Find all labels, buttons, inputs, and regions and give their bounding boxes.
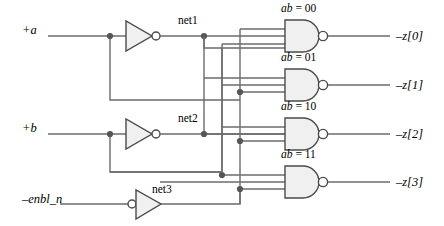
net-label-net2: net2 — [178, 112, 198, 124]
inverter-a — [126, 21, 160, 51]
gate-label-3: ab = 11 — [281, 148, 316, 160]
nand-gate-2 — [285, 118, 390, 150]
output-label-z2: –z[2] — [396, 127, 423, 142]
net-label-net3: net3 — [152, 183, 172, 195]
inverter-b — [126, 119, 160, 149]
wire-gate0-vbus — [222, 29, 240, 204]
wire-gate3-in1 — [219, 172, 285, 178]
gate-label-0-eq: = — [295, 2, 302, 14]
gate-label-2-value: 10 — [305, 100, 317, 112]
gate-label-2-eq: = — [295, 100, 302, 112]
schematic-svg: .w { stroke:#6b6b6b; stroke-width:1.4; f… — [0, 0, 444, 226]
gate-label-1-eq: = — [295, 51, 302, 63]
wire-gate3-in2 — [237, 186, 285, 192]
nand-gate-3 — [285, 166, 390, 198]
wire-net3 — [161, 191, 240, 204]
gate-label-2: ab = 10 — [281, 100, 316, 112]
net-label-net1: net1 — [178, 14, 198, 26]
gate-label-0-value: 00 — [305, 2, 317, 14]
nand-gate-0 — [285, 20, 390, 52]
gate-label-1-prefix: ab — [281, 51, 293, 63]
schematic-canvas: .w { stroke:#6b6b6b; stroke-width:1.4; f… — [0, 0, 444, 226]
gate-label-2-prefix: ab — [281, 100, 293, 112]
wire-gate1-in3 — [237, 89, 285, 95]
output-label-z3: –z[3] — [396, 175, 423, 190]
input-label-a: +a — [22, 23, 37, 38]
gate-label-1: ab = 01 — [281, 51, 316, 63]
gate-label-3-eq: = — [295, 148, 302, 160]
gate-label-3-prefix: ab — [281, 148, 293, 160]
wire-net1-bus — [201, 33, 285, 48]
wire-b-true-bus — [107, 131, 222, 172]
gate-label-3-value: 11 — [305, 148, 316, 160]
wire-gate2-in3 — [237, 138, 285, 144]
nand-gate-1 — [285, 69, 390, 101]
input-label-b: +b — [22, 121, 37, 136]
output-label-z0: –z[0] — [396, 29, 423, 44]
input-label-enbl-n: –enbl_n — [22, 192, 62, 207]
wire-gate2-in2 — [201, 131, 285, 137]
gate-label-0-prefix: ab — [281, 2, 293, 14]
output-label-z1: –z[1] — [396, 78, 423, 93]
gate-label-0: ab = 00 — [281, 2, 316, 14]
gate-label-1-value: 01 — [305, 51, 317, 63]
